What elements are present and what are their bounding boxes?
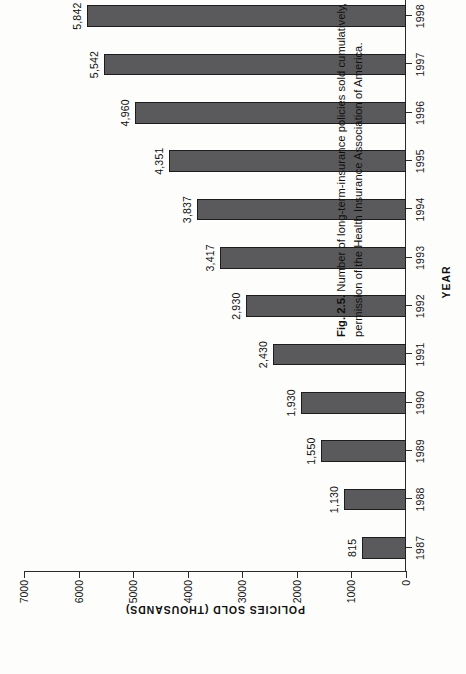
category-axis-tick	[406, 499, 412, 500]
category-axis-tick	[406, 15, 412, 16]
bar-value-label: 1,930	[285, 389, 297, 416]
category-axis-label: 1992	[414, 294, 426, 318]
category-axis-label: 1997	[414, 52, 426, 76]
value-axis-tick	[79, 571, 80, 578]
bar-value-label: 2,430	[257, 341, 269, 368]
bar	[273, 344, 406, 366]
caption-figure-number: Fig. 2.5.	[335, 295, 347, 337]
category-axis-label: 1987	[414, 536, 426, 560]
category-axis-tick	[406, 450, 412, 451]
caption-line-2: permission of the Health Insurance Assoc…	[350, 0, 367, 337]
bar-value-label: 5,542	[88, 51, 100, 78]
category-axis-tick	[406, 402, 412, 403]
value-axis-label: 5000	[127, 580, 139, 624]
bar-value-label: 4,351	[153, 148, 165, 175]
value-axis-label: 0	[400, 580, 412, 624]
bar-value-label: 4,960	[119, 99, 131, 126]
category-axis-tick	[406, 160, 412, 161]
bar	[246, 295, 406, 317]
category-axis-label: 1988	[414, 487, 426, 511]
bar	[344, 489, 406, 511]
category-axis-tick	[406, 354, 412, 355]
value-axis-tick	[351, 571, 352, 578]
bar-value-label: 3,837	[181, 196, 193, 223]
value-axis-label: 2000	[291, 580, 303, 624]
caption-line-1: Fig. 2.5. Number of long-term-insurance …	[333, 0, 350, 337]
bar-value-label: 815	[346, 539, 358, 557]
bar-value-label: 3,417	[204, 244, 216, 271]
bar	[301, 392, 406, 414]
x-axis-title: YEAR	[440, 266, 452, 299]
figure-page: 01000200030004000500060007000 8151,1301,…	[0, 0, 466, 674]
figure-caption: Fig. 2.5. Number of long-term-insurance …	[333, 0, 366, 337]
category-axis-tick	[406, 112, 412, 113]
category-axis-label: 1998	[414, 4, 426, 28]
category-axis-label: 1993	[414, 246, 426, 270]
value-axis-tick	[406, 571, 407, 578]
y-axis-title: POLICIES SOLD (THOUSANDS)	[125, 604, 305, 616]
bar	[220, 247, 406, 269]
bar	[169, 150, 406, 172]
value-axis-tick	[133, 571, 134, 578]
bar	[321, 440, 406, 462]
category-axis-tick	[406, 547, 412, 548]
category-axis-label: 1994	[414, 197, 426, 221]
category-axis-label: 1995	[414, 149, 426, 173]
value-axis-label: 7000	[18, 580, 30, 624]
category-axis-tick	[406, 64, 412, 65]
caption-body-1: Number of long-term-insurance policies s…	[335, 0, 347, 292]
value-axis-label: 1000	[345, 580, 357, 624]
bar	[362, 537, 406, 559]
caption-text-1	[335, 292, 347, 295]
category-axis-label: 1990	[414, 391, 426, 415]
value-axis-tick	[297, 571, 298, 578]
category-axis-tick	[406, 305, 412, 306]
value-axis-label: 3000	[236, 580, 248, 624]
value-axis-tick	[188, 571, 189, 578]
value-axis-tick	[242, 571, 243, 578]
category-axis-tick	[406, 257, 412, 258]
bar	[197, 199, 406, 221]
category-axis-label: 1989	[414, 439, 426, 463]
bar-value-label: 1,550	[305, 438, 317, 465]
value-axis-tick	[24, 571, 25, 578]
value-axis-label: 4000	[182, 580, 194, 624]
bar-value-label: 1,130	[328, 486, 340, 513]
bar-value-label: 2,930	[230, 293, 242, 320]
category-axis-tick	[406, 209, 412, 210]
category-axis-label: 1996	[414, 101, 426, 125]
bar-value-label: 5,842	[71, 3, 83, 30]
value-axis-label: 6000	[73, 580, 85, 624]
category-axis-label: 1991	[414, 342, 426, 366]
